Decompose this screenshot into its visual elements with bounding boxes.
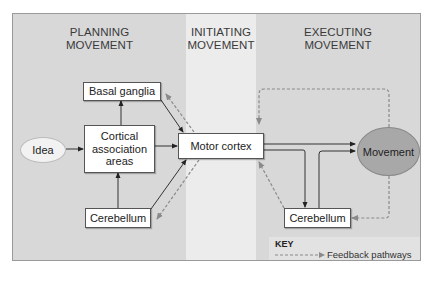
legend-key: KEY Feedback pathways [269,237,421,261]
zone-title-planning: PLANNING MOVEMENT [13,26,186,52]
node-label: association [92,143,147,156]
zone-title-line: MOVEMENT [13,39,186,52]
node-label: areas [106,155,134,168]
zone-title-executing: EXECUTING MOVEMENT [256,26,420,52]
zone-title-line: INITIATING [186,26,256,39]
node-label: Idea [32,144,53,156]
node-cortical-association-areas: Cortical association areas [84,125,155,173]
node-label: Cerebellum [90,212,146,225]
node-label: Movement [363,146,414,158]
node-movement: Movement [357,127,420,176]
zone-title-line: MOVEMENT [186,39,256,52]
zone-title-line: EXECUTING [256,26,420,39]
node-idea: Idea [20,137,66,163]
node-label: Basal ganglia [89,85,155,98]
zone-title-line: PLANNING [13,26,186,39]
legend-title: KEY [275,239,294,249]
node-label: Cortical [101,130,138,143]
node-cerebellum-executing: Cerebellum [284,208,351,228]
node-label: Cerebellum [289,212,345,225]
zone-title-line: MOVEMENT [256,39,420,52]
node-cerebellum-planning: Cerebellum [85,208,151,228]
node-basal-ganglia: Basal ganglia [83,82,161,101]
zone-title-initiating: INITIATING MOVEMENT [186,26,256,52]
legend-feedback-label: Feedback pathways [327,249,412,260]
dashed-arrow-icon [275,251,325,259]
node-motor-cortex: Motor cortex [178,133,264,159]
node-label: Motor cortex [190,140,251,153]
